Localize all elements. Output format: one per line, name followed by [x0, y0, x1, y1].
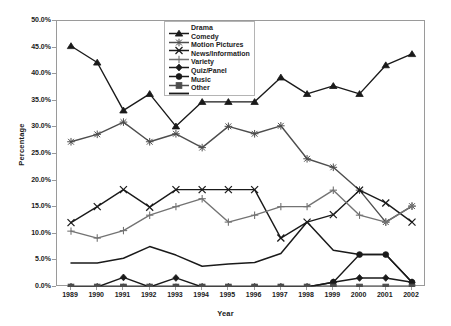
y-tick-label: 0.0%	[7, 282, 51, 289]
y-tick-label: 50.0%	[7, 16, 51, 23]
x-tick-label: 2002	[391, 291, 431, 298]
legend-item-quiz-panel: Quiz/Panel	[168, 67, 250, 76]
series-music	[68, 284, 415, 287]
legend-item-drama: Drama	[168, 24, 250, 33]
line-chart: Percentage Year 0.0%5.0%10.0%15.0%20.0%2…	[0, 0, 451, 326]
series-quiz-panel	[68, 252, 415, 287]
x-tick-label: 1997	[260, 291, 300, 298]
legend-item-comedy: Comedy	[168, 33, 250, 42]
legend-marker-icon	[168, 50, 190, 59]
legend-marker-icon	[168, 58, 190, 67]
legend-marker-icon	[168, 67, 190, 76]
legend-marker-icon	[168, 84, 190, 93]
legend-label: Quiz/Panel	[190, 67, 227, 76]
legend-item-other: Other	[168, 84, 250, 93]
legend-label: Variety	[190, 58, 214, 67]
legend-item-music: Music	[168, 76, 250, 85]
x-tick-label: 1993	[155, 291, 195, 298]
x-tick-label: 2000	[339, 291, 379, 298]
x-tick-label: 1995	[207, 291, 247, 298]
x-tick-label: 1990	[76, 291, 116, 298]
legend-marker-icon	[168, 33, 190, 42]
x-tick-label: 1994	[181, 291, 221, 298]
y-tick-label: 20.0%	[7, 176, 51, 183]
y-tick-label: 40.0%	[7, 69, 51, 76]
legend-item-news-information: News/Information	[168, 50, 250, 59]
y-tick-label: 25.0%	[7, 149, 51, 156]
legend-label: Drama	[190, 24, 213, 33]
legend-label: Music	[190, 76, 211, 85]
x-tick-label: 1992	[129, 291, 169, 298]
legend-item-motion-pictures: Motion Pictures	[168, 41, 250, 50]
x-axis-title: Year	[0, 309, 451, 318]
legend-label: Other	[190, 84, 210, 93]
series-variety	[68, 274, 415, 287]
y-tick-label: 10.0%	[7, 229, 51, 236]
x-tick-label: 1996	[234, 291, 274, 298]
legend-label: Comedy	[190, 33, 219, 42]
x-tick-label: 1989	[50, 291, 90, 298]
legend-marker-icon	[168, 24, 190, 33]
x-tick-label: 1999	[312, 291, 352, 298]
legend-item-variety: Variety	[168, 58, 250, 67]
chart-legend: DramaComedyMotion PicturesNews/Informati…	[164, 21, 255, 96]
legend-label: Motion Pictures	[190, 41, 244, 50]
x-tick-label: 1991	[102, 291, 142, 298]
y-axis-title: Percentage	[17, 105, 26, 185]
y-tick-label: 30.0%	[7, 122, 51, 129]
legend-marker-icon	[168, 41, 190, 50]
x-tick-label: 2001	[365, 291, 405, 298]
legend-marker-icon	[168, 76, 190, 85]
y-tick-mark	[52, 286, 56, 287]
series-comedy	[67, 118, 416, 226]
legend-label: News/Information	[190, 50, 250, 59]
y-tick-label: 45.0%	[7, 43, 51, 50]
y-tick-label: 5.0%	[7, 255, 51, 262]
y-tick-label: 35.0%	[7, 96, 51, 103]
x-tick-label: 1998	[286, 291, 326, 298]
y-tick-label: 15.0%	[7, 202, 51, 209]
